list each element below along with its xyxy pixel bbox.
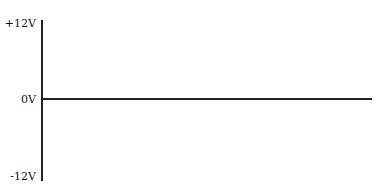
label-minus-12v: -12V	[2, 171, 36, 182]
label-plus-12v: +12V	[2, 18, 36, 29]
label-0v: 0V	[2, 94, 36, 105]
voltage-axis	[41, 20, 43, 181]
zero-volt-signal-line	[42, 98, 372, 100]
